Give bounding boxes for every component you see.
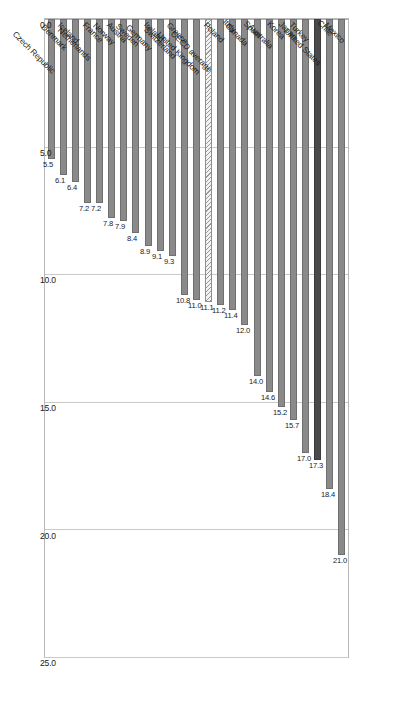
bar-value-label: 9.1 xyxy=(152,253,162,261)
bar-value-label: 9.3 xyxy=(164,258,174,266)
bar-value-label: 14.6 xyxy=(261,394,275,402)
bar-row xyxy=(229,19,236,657)
bar-value-label: 17.3 xyxy=(309,462,323,470)
bar-row xyxy=(132,19,139,657)
bar[interactable] xyxy=(338,19,345,555)
bar[interactable] xyxy=(290,19,297,420)
bar[interactable] xyxy=(278,19,285,407)
bar-row xyxy=(302,19,309,657)
bar-value-label: 7.8 xyxy=(103,220,113,228)
bar[interactable] xyxy=(266,19,273,392)
bar-row xyxy=(241,19,248,657)
bar-row xyxy=(205,19,212,657)
bar[interactable] xyxy=(302,19,309,453)
bar-row xyxy=(278,19,285,657)
bar-row xyxy=(145,19,152,657)
bar-value-label: 8.9 xyxy=(140,248,150,256)
bar-value-label: 6.4 xyxy=(67,184,77,192)
bar[interactable] xyxy=(229,19,236,310)
bar-value-label: 12.0 xyxy=(236,327,250,335)
bar-value-label: 15.7 xyxy=(285,422,299,430)
x-tick-label: 10.0 xyxy=(40,276,56,285)
bar[interactable] xyxy=(326,19,333,489)
bar[interactable] xyxy=(108,19,115,218)
bar-value-label: 8.4 xyxy=(127,235,137,243)
bar-value-label: 14.0 xyxy=(249,378,263,386)
bar-row xyxy=(266,19,273,657)
bar-value-label: 6.1 xyxy=(55,177,65,185)
bar-row xyxy=(48,19,55,657)
bar-row xyxy=(84,19,91,657)
bar[interactable] xyxy=(145,19,152,246)
bar[interactable] xyxy=(241,19,248,325)
rotated-page-wrapper: MexicoChileUnited StatesTurkeyJapanKorea… xyxy=(0,0,407,717)
bar[interactable] xyxy=(132,19,139,233)
bar-value-label: 11.0 xyxy=(188,302,201,310)
bar-row xyxy=(108,19,115,657)
x-tick-label: 25.0 xyxy=(40,659,56,668)
gridline-25.0 xyxy=(45,657,348,658)
bar-value-label: 7.9 xyxy=(115,223,125,231)
bar-value-label: 18.4 xyxy=(321,491,335,499)
bar[interactable] xyxy=(314,19,321,460)
bar-value-label: 7.2 xyxy=(79,205,89,213)
x-tick-label: 20.0 xyxy=(40,532,56,541)
bar-row xyxy=(120,19,127,657)
bar[interactable] xyxy=(157,19,164,251)
bar-row xyxy=(96,19,103,657)
bar-row xyxy=(314,19,321,657)
bar-row xyxy=(254,19,261,657)
x-tick-label: 15.0 xyxy=(40,404,56,413)
bar-value-label: 11.1 xyxy=(200,304,213,312)
bar-value-label: 21.0 xyxy=(333,557,347,565)
bar-row xyxy=(157,19,164,657)
x-tick-label: 0.0 xyxy=(40,21,51,30)
bar-row xyxy=(169,19,176,657)
bar[interactable] xyxy=(217,19,224,305)
bar-value-label: 11.2 xyxy=(212,307,225,315)
bar-row xyxy=(72,19,79,657)
bar-row xyxy=(217,19,224,657)
bar-series xyxy=(45,19,348,657)
bar-row xyxy=(181,19,188,657)
bar-chart-figure: MexicoChileUnited StatesTurkeyJapanKorea… xyxy=(0,0,407,717)
bar-row xyxy=(290,19,297,657)
bar[interactable] xyxy=(120,19,127,221)
bar[interactable] xyxy=(254,19,261,376)
bar-row xyxy=(60,19,67,657)
plot-area xyxy=(44,18,349,658)
bar-value-label: 7.2 xyxy=(91,205,101,213)
bar-row xyxy=(193,19,200,657)
bar-value-label: 10.8 xyxy=(176,297,190,305)
bar-value-label: 17.0 xyxy=(297,455,311,463)
bar-value-label: 5.5 xyxy=(43,161,53,169)
bar-value-label: 15.2 xyxy=(273,409,287,417)
x-tick-label: 5.0 xyxy=(40,149,51,158)
bar-value-label: 11.4 xyxy=(224,312,237,320)
bar[interactable] xyxy=(96,19,103,203)
bar[interactable] xyxy=(84,19,91,203)
